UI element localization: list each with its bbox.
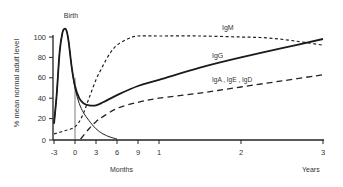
months-axis-label: Months bbox=[110, 166, 133, 173]
y-tick-label: 80 bbox=[38, 53, 46, 62]
maternal-igg-curve bbox=[54, 29, 117, 139]
iga-series-label: IgA , IgE , IgD bbox=[212, 76, 252, 84]
x-tick-label: -3 bbox=[51, 148, 58, 157]
immunoglobulin-chart: 020406080100-30369123 Birth IgM IgG IgA … bbox=[0, 0, 343, 187]
x-tick-label: 1 bbox=[157, 148, 161, 157]
igm-series-label: IgM bbox=[222, 24, 234, 32]
curves bbox=[54, 29, 323, 139]
igg-curve bbox=[54, 29, 323, 124]
x-tick-label: 2 bbox=[239, 148, 243, 157]
y-tick-label: 100 bbox=[33, 33, 46, 42]
y-tick-label: 60 bbox=[38, 73, 46, 82]
x-tick-label: 3 bbox=[94, 148, 98, 157]
birth-label: Birth bbox=[64, 12, 79, 19]
years-axis-label: Years bbox=[302, 166, 320, 173]
igg-series-label: IgG bbox=[212, 52, 223, 60]
x-tick-label: 3 bbox=[321, 148, 325, 157]
x-tick-label: 6 bbox=[115, 148, 119, 157]
igm-curve bbox=[54, 36, 323, 134]
iga-ige-igd-curve bbox=[81, 75, 323, 139]
y-tick-label: 40 bbox=[38, 94, 46, 103]
x-tick-label: 9 bbox=[136, 148, 140, 157]
y-axis-label: % mean normal adult level bbox=[12, 38, 21, 127]
y-tick-label: 20 bbox=[38, 114, 46, 123]
y-tick-label: 0 bbox=[42, 136, 46, 145]
x-tick-label: 0 bbox=[73, 148, 77, 157]
